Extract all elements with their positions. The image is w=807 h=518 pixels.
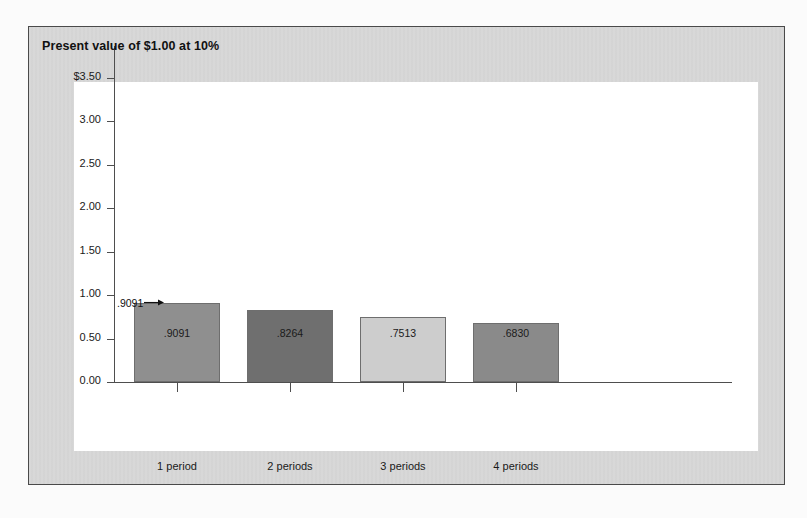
plot-canvas — [74, 82, 758, 451]
value-callout: .9091 — [117, 297, 164, 309]
bar-value-label: .6830 — [474, 327, 558, 339]
figure-frame: Present value of $1.00 at 10% 0.000.501.… — [28, 26, 785, 485]
y-tick-label: 2.00 — [80, 200, 101, 212]
y-tick-label: 0.50 — [80, 331, 101, 343]
y-tick-label: 0.00 — [80, 374, 101, 386]
y-tick-label: 2.50 — [80, 157, 101, 169]
x-tick — [177, 383, 178, 392]
y-axis-line — [114, 46, 115, 383]
y-tick: 2.00 — [107, 208, 115, 209]
bar: .9091 — [134, 303, 220, 382]
y-tick: 0.00 — [107, 382, 115, 383]
x-category-label: 1 period — [157, 460, 197, 472]
y-tick: 2.50 — [107, 165, 115, 166]
bar: .7513 — [360, 317, 446, 382]
bar-value-label: .8264 — [248, 327, 332, 339]
y-tick-label: $3.50 — [73, 70, 101, 82]
y-tick-label: 3.00 — [80, 113, 101, 125]
y-tick: 0.50 — [107, 339, 115, 340]
x-tick — [290, 383, 291, 392]
y-tick: 3.00 — [107, 121, 115, 122]
bar-value-label: .9091 — [135, 327, 219, 339]
x-category-label: 2 periods — [267, 460, 312, 472]
y-tick: $3.50 — [107, 78, 115, 79]
y-tick: 1.00 — [107, 295, 115, 296]
callout-label: .9091 — [117, 297, 143, 309]
y-tick-label: 1.50 — [80, 244, 101, 256]
bar-value-label: .7513 — [361, 327, 445, 339]
bar: .8264 — [247, 310, 333, 382]
bar: .6830 — [473, 323, 559, 382]
x-tick — [403, 383, 404, 392]
y-tick-label: 1.00 — [80, 287, 101, 299]
x-axis-line — [114, 382, 732, 383]
y-tick: 1.50 — [107, 252, 115, 253]
x-category-label: 4 periods — [493, 460, 538, 472]
x-category-label: 3 periods — [380, 460, 425, 472]
x-tick — [516, 383, 517, 392]
arrow-right-icon — [144, 298, 164, 307]
chart-title: Present value of $1.00 at 10% — [42, 39, 219, 53]
